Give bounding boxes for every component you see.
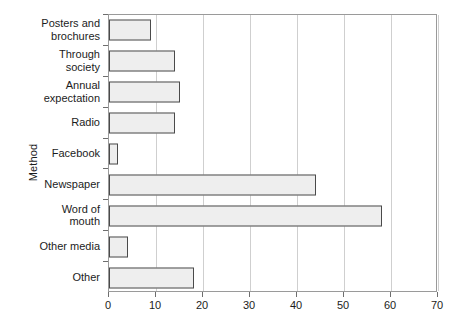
y-axis-tick-label: Radio — [20, 116, 100, 128]
gridline — [344, 15, 345, 291]
y-axis-tick-label: Facebook — [20, 147, 100, 159]
bar — [109, 144, 118, 165]
bar — [109, 20, 151, 41]
bar — [109, 174, 316, 195]
gridline — [297, 15, 298, 291]
y-axis-tick-label: Posters and brochures — [20, 17, 100, 42]
x-axis-tick-label: 50 — [337, 299, 349, 311]
x-axis-tick-labels: 010203040506070 — [108, 299, 437, 315]
x-axis-tick — [108, 292, 109, 297]
x-axis-tick — [155, 292, 156, 297]
x-axis-tick — [249, 292, 250, 297]
x-axis-tick — [343, 292, 344, 297]
y-axis-tick-label: Newspaper — [20, 178, 100, 190]
gridline — [438, 15, 439, 291]
x-axis-tick-label: 20 — [196, 299, 208, 311]
x-axis-tick — [296, 292, 297, 297]
gridline — [391, 15, 392, 291]
x-axis-tick-label: 10 — [149, 299, 161, 311]
y-axis-tick-label: Other — [20, 270, 100, 282]
x-axis-tick — [437, 292, 438, 297]
y-axis-tick-label: Other media — [20, 239, 100, 251]
x-axis-tick-label: 60 — [384, 299, 396, 311]
bar — [109, 236, 128, 257]
plot-area — [108, 14, 437, 292]
y-axis-tick-label: Word of mouth — [20, 202, 100, 227]
bar — [109, 205, 382, 226]
y-axis-tick-label: Annual expectation — [20, 79, 100, 104]
y-axis-tick-label: Through society — [20, 48, 100, 73]
bar — [109, 267, 194, 288]
x-axis-tick-label: 30 — [243, 299, 255, 311]
gridline — [250, 15, 251, 291]
bar — [109, 82, 180, 103]
bar — [109, 51, 175, 72]
gridline — [203, 15, 204, 291]
y-axis-tick-labels: Posters and brochuresThrough societyAnnu… — [24, 14, 104, 292]
x-axis-tick-label: 0 — [105, 299, 111, 311]
x-axis-tick — [390, 292, 391, 297]
x-axis-tick — [202, 292, 203, 297]
x-axis-tick-label: 40 — [290, 299, 302, 311]
bar — [109, 113, 175, 134]
x-axis-tick-label: 70 — [431, 299, 443, 311]
bar-chart: Method Posters and brochuresThrough soci… — [0, 0, 465, 325]
